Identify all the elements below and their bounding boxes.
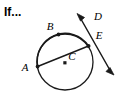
point-e-dot xyxy=(87,44,91,48)
label-c: C xyxy=(68,50,76,62)
arrowhead-d xyxy=(77,14,85,22)
label-e: E xyxy=(95,29,103,41)
point-c-dot xyxy=(63,61,66,64)
arc-a-b-e xyxy=(37,33,88,66)
label-a: A xyxy=(21,61,29,73)
point-b-dot xyxy=(57,33,61,37)
geometry-diagram: A B C D E xyxy=(0,0,124,98)
ray-through-e xyxy=(80,17,112,73)
label-d: D xyxy=(93,10,102,22)
geometry-figure: If... A B C D E xyxy=(0,0,124,98)
label-b: B xyxy=(47,20,54,32)
arrowhead-lower xyxy=(106,68,114,76)
chord-ae xyxy=(38,46,89,67)
point-a-dot xyxy=(36,65,40,69)
